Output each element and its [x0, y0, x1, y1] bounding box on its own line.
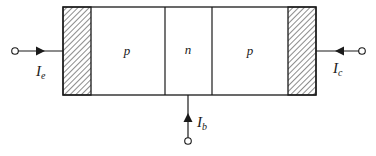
collector-terminal: [359, 48, 366, 55]
base-terminal: [185, 138, 192, 145]
collector-current-arrow-icon: [335, 47, 344, 56]
collector-current-label: Ic: [332, 60, 343, 78]
emitter-contact-hatched: [63, 7, 91, 95]
emitter-current-label: Ie: [35, 63, 46, 81]
collector-contact-hatched: [288, 7, 316, 95]
base-current-label: Ib: [196, 114, 207, 132]
collector-region-label: p: [246, 43, 254, 58]
emitter-region-label: p: [123, 43, 131, 58]
pnp-transistor-diagram: p n p Ie Ic Ib: [0, 0, 376, 156]
base-region-label: n: [185, 42, 192, 57]
emitter-current-arrow-icon: [36, 47, 45, 56]
base-current-arrow-icon: [184, 113, 193, 122]
emitter-terminal: [12, 48, 19, 55]
